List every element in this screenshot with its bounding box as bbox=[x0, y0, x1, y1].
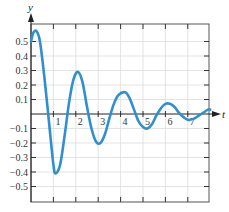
y-tick-label: −0.4 bbox=[10, 167, 28, 178]
x-tick-label: 2 bbox=[78, 116, 83, 127]
y-tick-label: 0.5 bbox=[16, 36, 29, 47]
y-tick-label: 0.2 bbox=[16, 80, 29, 91]
y-axis-arrow-icon bbox=[28, 13, 34, 22]
x-tick-label: 5 bbox=[145, 116, 150, 127]
x-tick-label: 3 bbox=[100, 116, 105, 127]
y-tick-label: −0.5 bbox=[10, 181, 28, 192]
x-axis-label: t bbox=[222, 108, 226, 120]
damped-oscillation-chart: t y 12345670.50.40.30.20.1−0.1−0.2−0.3−0… bbox=[0, 0, 229, 212]
y-axis-label: y bbox=[27, 1, 33, 13]
y-tick-label: −0.2 bbox=[10, 138, 28, 149]
grid-lines bbox=[31, 24, 209, 202]
x-tick-label: 1 bbox=[55, 116, 60, 127]
y-tick-label: −0.1 bbox=[10, 123, 28, 134]
y-tick-label: −0.3 bbox=[10, 152, 28, 163]
x-axis-arrow-icon bbox=[212, 111, 221, 117]
x-tick-label: 4 bbox=[123, 116, 128, 127]
x-tick-label: 6 bbox=[167, 116, 172, 127]
plot-frame bbox=[31, 24, 209, 202]
axis-ticks bbox=[31, 24, 209, 202]
y-tick-label: 0.1 bbox=[16, 94, 29, 105]
y-tick-label: 0.3 bbox=[16, 65, 29, 76]
y-tick-label: 0.4 bbox=[16, 51, 29, 62]
